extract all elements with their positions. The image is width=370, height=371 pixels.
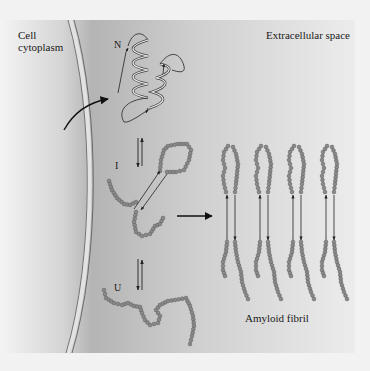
intermediate-state-label: I bbox=[115, 160, 118, 172]
amyloid-formation-diagram bbox=[0, 0, 370, 371]
native-state-label: N bbox=[114, 39, 121, 51]
amyloid-fibril-label: Amyloid fibril bbox=[245, 312, 309, 324]
extracellular-space-label: Extracellular space bbox=[266, 29, 350, 41]
unfolded-state-label: U bbox=[114, 282, 121, 294]
cell-cytoplasm-label: Cell cytoplasm bbox=[18, 29, 63, 53]
